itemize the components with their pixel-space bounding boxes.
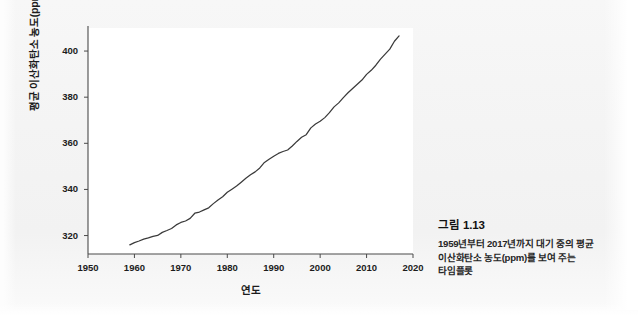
y-axis-title-text: 평균 이산화탄소 농도(ppm)	[26, 0, 41, 150]
y-tick-label: 380	[44, 91, 78, 102]
x-axis-title: 연도	[88, 282, 413, 297]
y-tick-label: 400	[44, 45, 78, 56]
x-axis-title-text: 연도	[241, 284, 261, 296]
x-tick-label: 1960	[114, 262, 154, 273]
scanned-page: 320340360380400 195019601970198019902000…	[0, 0, 638, 323]
figure-timeplot: 320340360380400 195019601970198019902000…	[0, 0, 430, 310]
page-edge-right	[604, 0, 638, 310]
figure-caption: 그림 1.13 1959년부터 2017년까지 대기 중의 평균 이산화탄소 농…	[438, 216, 598, 278]
y-tick-label: 340	[44, 183, 78, 194]
co2-series-line	[130, 36, 399, 245]
x-tick-label: 2000	[300, 262, 340, 273]
y-tick-label: 360	[44, 137, 78, 148]
x-tick-label: 1970	[161, 262, 201, 273]
axis-layer	[88, 26, 413, 254]
tick-layer	[84, 51, 413, 258]
x-tick-label: 2010	[347, 262, 387, 273]
x-tick-label: 1990	[254, 262, 294, 273]
caption-text: 1959년부터 2017년까지 대기 중의 평균 이산화탄소 농도(ppm)를 …	[438, 237, 598, 278]
x-tick-label: 2020	[393, 262, 433, 273]
x-tick-label: 1980	[207, 262, 247, 273]
caption-number: 그림 1.13	[438, 216, 598, 232]
x-tick-label: 1950	[68, 262, 108, 273]
y-axis-title: 평균 이산화탄소 농도(ppm)	[26, 0, 42, 58]
y-tick-label: 320	[44, 230, 78, 241]
